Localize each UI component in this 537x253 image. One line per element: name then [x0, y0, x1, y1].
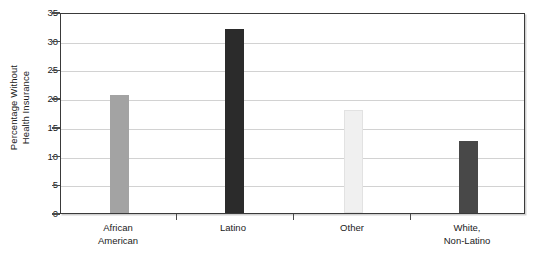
x-tick-mark — [410, 214, 411, 220]
x-category-label: AfricanAmerican — [98, 222, 138, 247]
y-tick-mark — [52, 41, 60, 42]
x-category-label-line-2: Non-Latino — [444, 235, 490, 248]
bar — [344, 110, 363, 213]
y-tick-mark — [52, 213, 60, 214]
x-category-label-line-1: Other — [340, 222, 364, 233]
y-axis-title: Percentage Without Health Insurance — [0, 0, 40, 214]
y-tick-mark — [52, 156, 60, 157]
y-axis-title-line-1: Percentage Without — [9, 64, 21, 149]
x-category-label-line-1: African — [103, 222, 133, 233]
x-axis-category-labels: AfricanAmericanLatinoOtherWhite,Non-Lati… — [60, 222, 525, 252]
x-category-label: Latino — [220, 222, 246, 235]
y-tick-mark — [52, 12, 60, 13]
plot-area — [60, 13, 525, 214]
bars-layer — [61, 14, 524, 213]
y-axis-title-line-2: Health Insurance — [20, 64, 32, 149]
bar-chart: Percentage Without Health Insurance 0510… — [0, 0, 537, 253]
bar — [110, 95, 129, 213]
y-tick-mark — [52, 127, 60, 128]
bar — [459, 141, 478, 213]
x-category-label-line-2: American — [98, 235, 138, 248]
x-tick-mark — [293, 214, 294, 220]
x-category-label: Other — [340, 222, 364, 235]
x-category-label-line-1: Latino — [220, 222, 246, 233]
bar — [225, 29, 244, 213]
x-axis-tick-marks — [60, 214, 525, 221]
x-category-label: White,Non-Latino — [444, 222, 490, 247]
x-category-label-line-1: White, — [454, 222, 481, 233]
y-tick-mark — [52, 70, 60, 71]
x-tick-mark — [176, 214, 177, 220]
y-tick-mark — [52, 98, 60, 99]
y-tick-mark — [52, 185, 60, 186]
